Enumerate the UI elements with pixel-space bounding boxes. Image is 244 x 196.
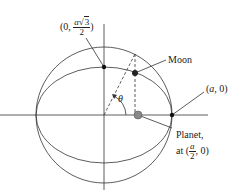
top-point-open: (0, <box>60 21 73 32</box>
right-point-close: , 0) <box>214 83 227 94</box>
top-point-dot <box>102 65 106 69</box>
top-point-leader <box>86 38 104 67</box>
planet-leader <box>138 115 172 128</box>
planet-dot <box>134 111 142 119</box>
planet-label-line1: Planet, <box>176 130 204 140</box>
right-point-leader <box>172 92 204 115</box>
moon-leader <box>135 60 166 73</box>
angle-arrowhead <box>112 94 117 99</box>
top-point-label: (0, a√32) <box>60 18 94 38</box>
moon-label: Moon <box>168 55 192 65</box>
right-point-dot <box>170 113 174 117</box>
angle-label: θ <box>118 94 123 104</box>
planet-prefix: at ( <box>176 145 189 156</box>
top-point-den: 2 <box>80 28 85 37</box>
planet-label-line2: at (a2, 0) <box>176 142 209 162</box>
top-point-num-var: a <box>74 17 79 27</box>
top-point-close: ) <box>90 21 93 32</box>
top-point-num-root: 3 <box>84 16 90 27</box>
top-point-fraction: a√32 <box>73 18 90 38</box>
moon-dot <box>132 70 138 76</box>
dashed-radius <box>104 54 135 115</box>
planet-suffix: , 0) <box>196 145 209 156</box>
right-point-label: (a, 0) <box>206 84 228 94</box>
planet-den: 2 <box>190 152 195 161</box>
